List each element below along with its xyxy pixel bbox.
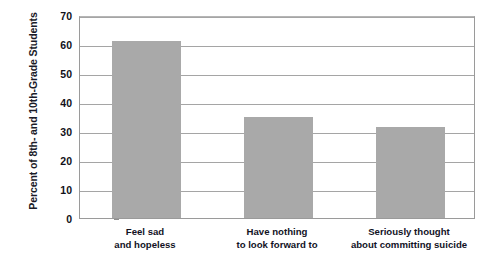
bar <box>112 41 181 218</box>
x-category-label-line: about committing suicide <box>343 239 475 252</box>
x-category-label: Feel sadand hopeless <box>79 226 211 251</box>
y-axis-tick-labels: 010203040506070 <box>42 0 72 276</box>
gridline <box>80 17 474 18</box>
y-tick-label: 40 <box>46 97 72 109</box>
x-category-label: Seriously thoughtabout committing suicid… <box>343 226 475 251</box>
plot-area <box>79 16 475 219</box>
bar-chart-figure: Percent of 8th- and 10th-Grade Students … <box>0 0 500 276</box>
x-category-label-line: Seriously thought <box>343 226 475 239</box>
y-tick-label: 70 <box>46 10 72 22</box>
y-tick-label: 10 <box>46 184 72 196</box>
x-category-label: Have nothingto look forward to <box>211 226 343 251</box>
bar <box>244 117 313 219</box>
y-tick-label: 20 <box>46 155 72 167</box>
x-category-label-line: Feel sad <box>79 226 211 239</box>
y-axis-title: Percent of 8th- and 10th-Grade Students <box>27 6 39 216</box>
y-tick-label: 60 <box>46 39 72 51</box>
x-category-label-line: and hopeless <box>79 239 211 252</box>
y-tick-mark <box>114 219 119 220</box>
x-category-label-line: to look forward to <box>211 239 343 252</box>
y-tick-label: 30 <box>46 126 72 138</box>
y-tick-label: 50 <box>46 68 72 80</box>
y-tick-label: 0 <box>46 213 72 225</box>
x-category-label-line: Have nothing <box>211 226 343 239</box>
bar <box>376 127 445 218</box>
